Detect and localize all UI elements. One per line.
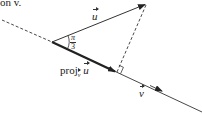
vector-projection-diagram: on v. u π 3 projv u v [0,0,202,116]
u-label: u [92,11,98,22]
v-label: v [139,88,144,99]
label-vector-u: u [92,11,98,22]
angle-denominator: 3 [70,43,76,51]
label-projection: projv u [60,65,89,78]
diagram-canvas [0,0,202,116]
perpendicular-dashed [117,5,146,72]
angle-arc [67,36,69,50]
proj-subscript: v [78,72,81,78]
proj-text: proj [60,64,78,76]
line-v-dashed-extension [2,20,52,42]
proj-vector-u: u [83,65,89,76]
label-vector-v: v [139,88,144,99]
caption-fragment: on v. [0,0,21,8]
vector-u [52,5,145,43]
label-angle: π 3 [70,34,76,52]
caption-text: on v. [0,0,21,8]
angle-fraction: π 3 [70,34,76,51]
